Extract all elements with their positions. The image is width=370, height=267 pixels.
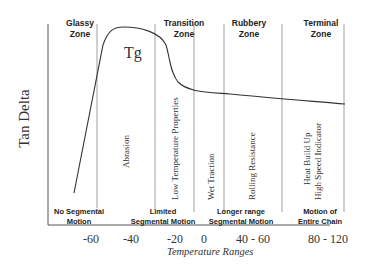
y-axis-label: Tan Delta [16,81,33,157]
motion-longer: Longer range Segmental Motion [206,207,276,227]
x-tick-5: 40 - 60 [228,232,278,247]
zone-glassy-line2: Zone [60,29,100,40]
property-wet-traction: Wet Traction [206,153,216,200]
property-low-temperature: Low Temperature Properties [170,97,180,200]
motion-none-line1: No Segmental [50,207,108,217]
motion-longer-line2: Segmental Motion [206,217,276,227]
tan-delta-diagram: Glassy Zone Transition Zone Rubbery Zone… [0,0,370,267]
motion-entire: Motion of Entire Chain [290,207,350,227]
x-tick-1: -60 [76,232,106,247]
x-tick-2: -40 [116,232,146,247]
zone-glassy-line1: Glassy [60,18,100,29]
property-rolling-resistance: Rolling Resistance [247,132,257,200]
zone-rubbery-line1: Rubbery [224,18,274,29]
property-heat-build-up: Heat Build Up [302,133,312,186]
motion-longer-line1: Longer range [206,207,276,217]
zone-transition: Transition Zone [154,18,214,40]
property-high-speed: High Speed Indicator [313,123,323,200]
motion-none-line2: Motion [50,217,108,227]
zone-transition-line1: Transition [154,18,214,29]
motion-limited-line1: Limited [122,207,204,217]
property-abrasion: Abrasion [121,135,131,168]
zone-rubbery-line2: Zone [224,29,274,40]
zone-terminal: Terminal Zone [296,18,346,40]
motion-entire-line2: Entire Chain [290,217,350,227]
zone-terminal-line1: Terminal [296,18,346,29]
zone-terminal-line2: Zone [296,29,346,40]
x-tick-3: -20 [160,232,190,247]
motion-limited-line2: Segmental Motion [122,217,204,227]
x-tick-6: 80 - 120 [300,232,356,247]
motion-entire-line1: Motion of [290,207,350,217]
motion-none: No Segmental Motion [50,207,108,227]
zone-transition-line2: Zone [154,29,214,40]
tg-label: Tg [124,44,142,62]
x-axis-label: Temperature Ranges [167,246,253,257]
motion-limited: Limited Segmental Motion [122,207,204,227]
zone-rubbery: Rubbery Zone [224,18,274,40]
x-tick-4: 0 [194,232,214,247]
zone-glassy: Glassy Zone [60,18,100,40]
